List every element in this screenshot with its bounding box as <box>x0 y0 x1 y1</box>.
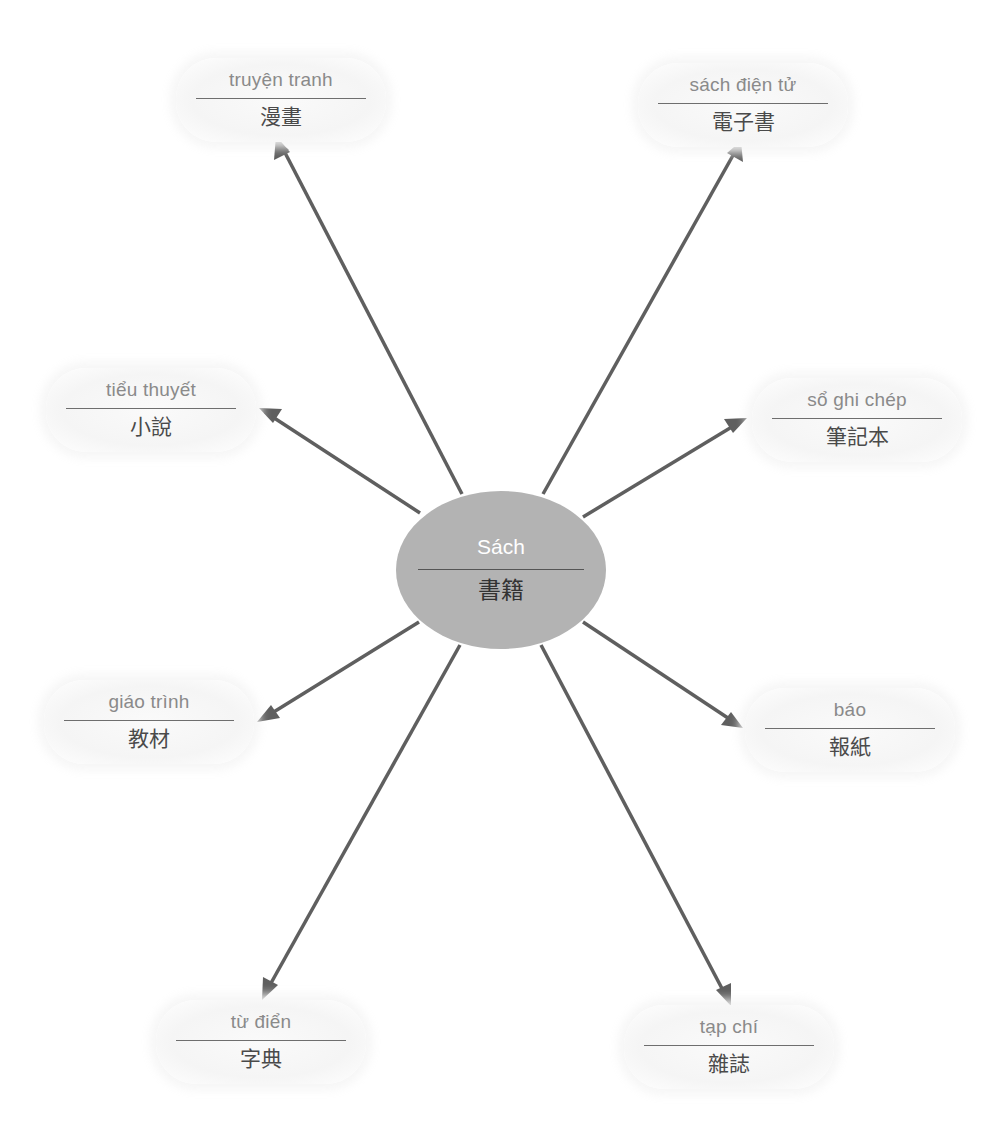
node-notebook-vietnamese: sổ ghi chép <box>752 388 962 412</box>
arrow-to-textbook <box>264 622 419 718</box>
node-divider <box>66 408 236 409</box>
arrowhead-dictionary <box>262 977 278 1000</box>
arrow-to-newspaper <box>583 622 737 724</box>
node-notebook-chinese: 筆記本 <box>752 423 962 451</box>
node-divider <box>64 720 234 721</box>
node-notebook: sổ ghi chép 筆記本 <box>752 378 962 462</box>
node-dictionary-chinese: 字典 <box>156 1045 366 1073</box>
node-divider <box>176 1040 346 1041</box>
node-magazine-chinese: 雜誌 <box>624 1050 834 1078</box>
arrowhead-magazine <box>716 983 731 1006</box>
node-newspaper-chinese: 報紙 <box>745 733 955 761</box>
node-magazine: tạp chí 雜誌 <box>624 1005 834 1089</box>
node-novel: tiểu thuyết 小說 <box>46 368 256 452</box>
node-ebook-chinese: 電子書 <box>638 108 848 136</box>
node-newspaper: báo 報紙 <box>745 688 955 772</box>
node-ebook: sách điện tử 電子書 <box>638 63 848 147</box>
center-vietnamese: Sách <box>396 534 606 560</box>
node-textbook-vietnamese: giáo trình <box>44 690 254 714</box>
center-divider <box>418 569 584 570</box>
node-novel-vietnamese: tiểu thuyết <box>46 378 256 402</box>
node-dictionary: từ điển 字典 <box>156 1000 366 1084</box>
center-node-books: Sách 書籍 <box>396 491 606 649</box>
node-divider <box>196 98 366 99</box>
node-comic-vietnamese: truyện tranh <box>176 68 386 92</box>
node-divider <box>644 1045 814 1046</box>
arrow-to-novel <box>265 412 420 513</box>
node-comic: truyện tranh 漫畫 <box>176 58 386 142</box>
node-divider <box>765 728 935 729</box>
node-magazine-vietnamese: tạp chí <box>624 1015 834 1039</box>
center-chinese: 書籍 <box>396 575 606 605</box>
node-ebook-vietnamese: sách điện tử <box>638 73 848 97</box>
node-divider <box>658 103 828 104</box>
node-divider <box>772 418 942 419</box>
node-comic-chinese: 漫畫 <box>176 103 386 131</box>
arrow-to-notebook <box>583 422 740 517</box>
node-newspaper-vietnamese: báo <box>745 698 955 722</box>
node-textbook: giáo trình 教材 <box>44 680 254 764</box>
arrowhead-textbook <box>257 705 280 722</box>
node-novel-chinese: 小說 <box>46 413 256 441</box>
node-dictionary-vietnamese: từ điển <box>156 1010 366 1034</box>
node-textbook-chinese: 教材 <box>44 725 254 753</box>
